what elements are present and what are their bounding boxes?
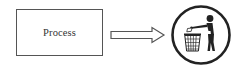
right-arrow-icon [110, 26, 166, 44]
tidyman-trash-icon [170, 4, 232, 66]
process-label: Process [43, 27, 76, 38]
process-box: Process [16, 9, 103, 56]
